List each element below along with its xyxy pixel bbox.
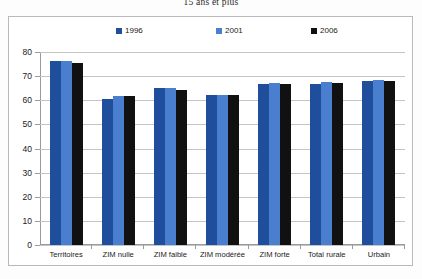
bar-2006-6[interactable] xyxy=(384,81,395,245)
bar-2001-5[interactable] xyxy=(321,82,332,245)
bar-2001-3[interactable] xyxy=(217,95,228,245)
y-axis-label-20: 20 xyxy=(23,192,32,202)
bar-2006-1[interactable] xyxy=(124,96,135,245)
chart-title: 15 ans et plus xyxy=(0,0,422,7)
x-axis-label-3: ZIM modérée xyxy=(196,249,248,267)
y-axis-label-60: 60 xyxy=(23,95,32,105)
bar-1996-0[interactable] xyxy=(50,61,61,245)
x-axis-labels: TerritoiresZIM nulleZIM faibleZIM modéré… xyxy=(40,249,405,267)
y-axis-label-70: 70 xyxy=(23,71,32,81)
legend-label-1996: 1996 xyxy=(125,27,143,35)
y-axis-label-0: 0 xyxy=(27,240,32,250)
bar-1996-2[interactable] xyxy=(154,88,165,245)
y-axis-label-50: 50 xyxy=(23,119,32,129)
bar-2001-1[interactable] xyxy=(113,96,124,245)
bar-2006-3[interactable] xyxy=(228,95,239,245)
bar-1996-6[interactable] xyxy=(362,81,373,245)
plot-area: 80706050403020100 xyxy=(40,52,405,245)
bar-group xyxy=(40,52,92,245)
y-axis-label-30: 30 xyxy=(23,168,32,178)
bar-group xyxy=(196,52,248,245)
bar-groups xyxy=(40,52,405,245)
bar-2001-6[interactable] xyxy=(373,80,384,245)
y-tick-0 xyxy=(35,245,40,246)
x-axis-label-1: ZIM nulle xyxy=(92,249,144,267)
bar-1996-1[interactable] xyxy=(102,99,113,245)
bar-group xyxy=(301,52,353,245)
bar-group xyxy=(144,52,196,245)
x-axis-label-6: Urbain xyxy=(353,249,405,267)
bar-2006-4[interactable] xyxy=(280,84,291,245)
legend-swatch-2001 xyxy=(216,28,222,34)
bar-2006-0[interactable] xyxy=(72,63,83,245)
legend-item-1996: 1996 xyxy=(116,27,143,35)
x-axis-label-0: Territoires xyxy=(40,249,92,267)
x-axis-label-4: ZIM forte xyxy=(249,249,301,267)
legend-swatch-2006 xyxy=(311,28,317,34)
chart-legend: 1996 2001 2006 xyxy=(8,27,413,41)
bar-2006-2[interactable] xyxy=(176,90,187,245)
bar-group xyxy=(92,52,144,245)
legend-swatch-1996 xyxy=(116,28,122,34)
bar-2001-0[interactable] xyxy=(61,61,72,245)
bar-1996-3[interactable] xyxy=(206,95,217,245)
gridline-0 xyxy=(40,245,405,246)
x-axis-label-2: ZIM faible xyxy=(144,249,196,267)
legend-item-2001: 2001 xyxy=(216,27,243,35)
chart-canvas: 15 ans et plus 1996 2001 2006 8070605040… xyxy=(0,0,422,279)
legend-item-2006: 2006 xyxy=(311,27,338,35)
legend-label-2001: 2001 xyxy=(225,27,243,35)
x-axis-label-5: Total rurale xyxy=(301,249,353,267)
bar-1996-4[interactable] xyxy=(258,84,269,245)
bar-1996-5[interactable] xyxy=(310,84,321,245)
y-axis-label-10: 10 xyxy=(23,216,32,226)
y-axis-label-40: 40 xyxy=(23,144,32,154)
bar-group xyxy=(353,52,405,245)
bar-group xyxy=(249,52,301,245)
legend-label-2006: 2006 xyxy=(320,27,338,35)
bar-2001-4[interactable] xyxy=(269,83,280,245)
bar-2006-5[interactable] xyxy=(332,83,343,245)
bar-2001-2[interactable] xyxy=(165,88,176,245)
y-axis-label-80: 80 xyxy=(23,47,32,57)
